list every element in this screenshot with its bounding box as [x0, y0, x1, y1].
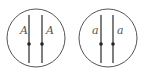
- chromosome: A: [19, 15, 31, 63]
- allele-label: a: [117, 24, 124, 37]
- allele-label: a: [92, 24, 99, 37]
- chromosome: a: [92, 15, 103, 63]
- allele-label: A: [19, 24, 28, 37]
- cell-membrane: [79, 9, 137, 67]
- cell-membrane: [7, 9, 65, 67]
- cell-dominant: A A: [7, 9, 65, 67]
- allele-label: A: [45, 24, 54, 37]
- centromere-dot: [111, 42, 115, 46]
- centromere-dot: [99, 42, 103, 46]
- chromosome: a: [111, 15, 123, 63]
- chromosome: A: [40, 15, 54, 63]
- diagram: A A a a: [0, 0, 144, 77]
- centromere-dot: [40, 42, 44, 46]
- centromere-dot: [27, 42, 31, 46]
- cell-recessive: a a: [79, 9, 137, 67]
